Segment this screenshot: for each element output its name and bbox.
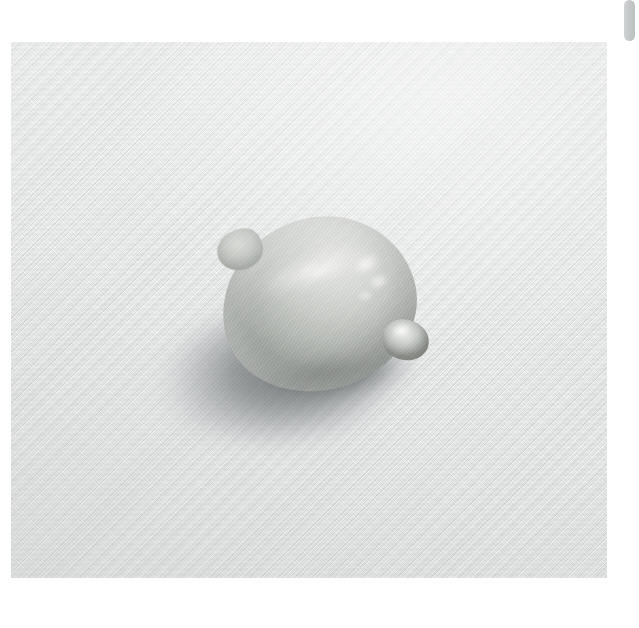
vertical-scrollbar-thumb[interactable]: [624, 0, 635, 41]
image-viewer: [0, 0, 639, 628]
photo-canvas[interactable]: [11, 42, 607, 578]
lemon-subject: [207, 208, 439, 408]
lemon-specular-tertiary: [357, 290, 373, 301]
vertical-scrollbar-track[interactable]: [622, 0, 639, 628]
